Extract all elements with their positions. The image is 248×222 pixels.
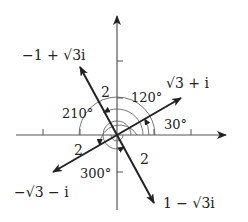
modulus-label-120: 2 [101,84,110,100]
modulus-label-210: 2 [74,142,83,158]
angle-label-120: 120° [131,90,162,105]
label-1-minus-sqrt3i: 1 − √3i [163,195,215,211]
diagram-canvas: √3 + i −1 + √3i −√3 − i 1 − √3i 2 2 2 30… [0,0,248,222]
label-neg-sqrt3-minus-i: −√3 − i [14,184,69,200]
angle-label-30: 30° [164,117,187,132]
angle-label-300: 300° [80,166,111,181]
axes [16,16,226,210]
arc-30 [145,119,149,135]
label-sqrt3-plus-i: √3 + i [166,75,209,91]
angle-label-210: 210° [62,106,93,121]
vector-neg1-plus-sqrt3i [80,67,117,135]
vector-1-minus-sqrt3i [117,135,154,203]
complex-plane-diagram: √3 + i −1 + √3i −√3 − i 1 − √3i 2 2 2 30… [0,0,248,222]
label-neg1-plus-sqrt3i: −1 + √3i [22,47,86,63]
modulus-label-300: 2 [140,151,149,167]
